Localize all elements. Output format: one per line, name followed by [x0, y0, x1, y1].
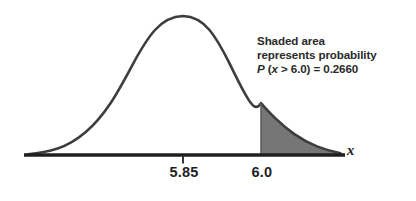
probability-open-paren: ( [265, 62, 272, 75]
probability-symbol: P [257, 62, 265, 75]
annotation-line-3: P (x > 6.0) = 0.2660 [257, 62, 409, 76]
shaded-area-annotation: Shaded area represents probability P (x … [257, 34, 409, 77]
x-tick-label-mean: 5.85 [150, 164, 218, 180]
annotation-line-2: represents probability [257, 48, 409, 62]
annotation-line-1: Shaded area [257, 34, 409, 48]
shaded-tail-region [261, 103, 345, 154]
normal-distribution-figure: Shaded area represents probability P (x … [0, 0, 416, 201]
x-axis-variable-label: x [347, 142, 354, 159]
x-tick-label-cutoff: 6.0 [232, 164, 292, 180]
probability-expression: > 6.0) = 0.2660 [278, 62, 358, 75]
